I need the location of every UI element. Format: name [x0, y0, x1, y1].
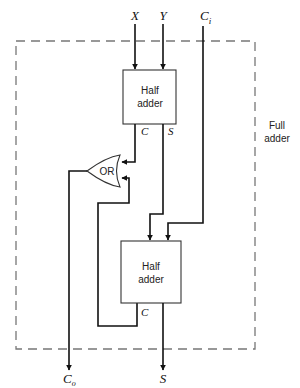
full-adder-label-2: adder: [264, 133, 290, 144]
wire-ha1-c: [122, 124, 135, 162]
input-ci-label: Ci: [200, 8, 212, 26]
wire-ha1-s: [150, 124, 163, 240]
half-adder-2-label-2: adder: [138, 274, 164, 285]
half-adder-2-label-1: Half: [142, 261, 160, 272]
half-adder-1-label-1: Half: [141, 85, 159, 96]
half-adder-2-c-label: C: [141, 306, 149, 318]
input-y-label: Y: [159, 8, 168, 23]
half-adder-1-label-2: adder: [137, 98, 163, 109]
full-adder-label-1: Full: [269, 120, 285, 131]
full-adder-diagram: X Y Ci Half adder C S OR Half adder C Co…: [0, 0, 300, 388]
output-co-label: Co: [63, 371, 76, 388]
half-adder-1-s-label: S: [168, 125, 174, 137]
half-adder-1-c-label: C: [141, 125, 149, 137]
input-x-label: X: [130, 8, 140, 23]
output-s-label: S: [160, 371, 167, 386]
half-adder-1: [123, 70, 176, 124]
half-adder-2: [121, 241, 181, 303]
wire-co: [69, 171, 87, 370]
or-gate-label: OR: [100, 166, 115, 177]
